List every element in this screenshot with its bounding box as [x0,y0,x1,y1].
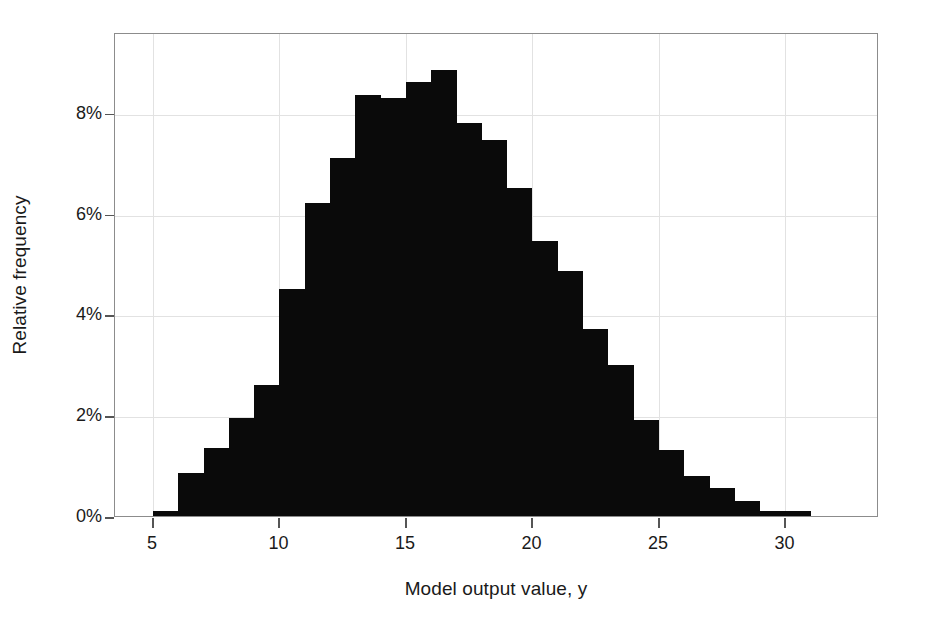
histogram-figure: Relative frequency 0%2%4%6%8% 5101520253… [0,0,929,630]
histogram-bar [457,123,482,516]
x-tick-mark [152,518,154,528]
histogram-bar [229,418,254,516]
y-tick-label-wrap: 4% [30,305,102,325]
y-tick-label-wrap: 8% [30,104,102,124]
y-tick-mark [105,517,114,519]
histogram-bar [760,511,785,516]
y-tick-mark [105,215,114,217]
y-tick-mark [105,114,114,116]
histogram-bar [634,420,659,516]
gridline-vertical [659,34,660,516]
gridline-vertical [785,34,786,516]
x-tick-mark [784,518,786,528]
y-tick-label-wrap: 2% [30,406,102,426]
y-tick-mark [105,416,114,418]
histogram-bar [684,476,709,516]
histogram-bar [482,140,507,516]
y-tick-label: 8% [42,104,102,122]
y-tick-mark [105,315,114,317]
histogram-bar [254,385,279,516]
gridline-vertical [153,34,154,516]
histogram-bar [153,511,178,516]
histogram-bar [330,158,355,516]
histogram-bar [406,82,431,516]
histogram-bar [204,448,229,516]
y-tick-label: 0% [42,507,102,525]
x-tick-mark [658,518,660,528]
x-axis-label: Model output value, y [114,578,878,600]
histogram-bar [279,289,304,516]
histogram-bar [507,188,532,516]
histogram-bar [735,501,760,516]
x-tick-label: 15 [375,534,435,552]
histogram-bar [355,95,380,516]
y-tick-label: 2% [42,406,102,424]
gridline-horizontal [115,115,877,116]
x-tick-label: 25 [628,534,688,552]
x-tick-mark [278,518,280,528]
plot-area [114,33,878,517]
histogram-bar [785,511,810,516]
histogram-bar [710,488,735,516]
histogram-bar [431,70,456,516]
histogram-bar [305,203,330,516]
x-tick-label: 20 [501,534,561,552]
x-tick-label: 10 [248,534,308,552]
y-tick-label: 6% [42,205,102,223]
histogram-bar [608,365,633,516]
x-tick-label: 30 [754,534,814,552]
histogram-bar [659,450,684,516]
y-tick-label-wrap: 6% [30,205,102,225]
y-tick-label-wrap: 0% [30,507,102,527]
histogram-bar [583,329,608,516]
x-tick-mark [531,518,533,528]
histogram-bar [381,98,406,516]
x-tick-mark [405,518,407,528]
y-tick-label: 4% [42,305,102,323]
histogram-bar [532,241,557,516]
histogram-bar [558,271,583,516]
x-tick-label: 5 [122,534,182,552]
histogram-bar [178,473,203,516]
